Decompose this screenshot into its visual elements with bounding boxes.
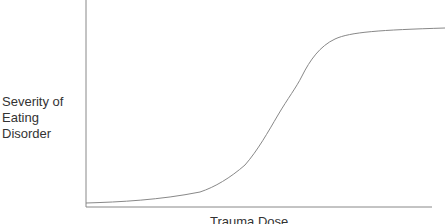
severity-curve bbox=[86, 28, 445, 203]
y-axis-label: Severity of Eating Disorder bbox=[2, 94, 63, 142]
y-axis-label-line-2: Eating bbox=[2, 110, 63, 126]
x-axis-label: Trauma Dose bbox=[210, 214, 288, 224]
y-axis-label-line-3: Disorder bbox=[2, 126, 63, 142]
y-axis-label-line-1: Severity of bbox=[2, 94, 63, 110]
chart-canvas bbox=[0, 0, 448, 224]
